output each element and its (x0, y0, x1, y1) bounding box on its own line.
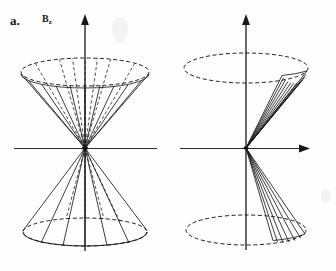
panel-b-lower-cone-vectors (246, 148, 305, 243)
panel-b-apex (243, 146, 248, 150)
scan-artifact (112, 17, 128, 43)
panel-b-upper-cone-vectors (246, 71, 307, 148)
panel-a-drawing (0, 0, 168, 271)
panel-a-bz-arrowhead (81, 14, 89, 25)
panel-a-apex (82, 146, 88, 150)
panel-b-drawing (168, 0, 336, 271)
panel-b-bz-arrowhead (242, 14, 250, 25)
panel-b-bx-arrowhead (299, 145, 310, 153)
panel-a: a. Bz (0, 0, 168, 271)
figure-root: a. Bz (0, 0, 336, 271)
scan-artifact (321, 189, 331, 203)
panel-a-lower-cone-front-vectors (23, 148, 147, 246)
panel-b: b. Bz Bx (168, 0, 336, 271)
